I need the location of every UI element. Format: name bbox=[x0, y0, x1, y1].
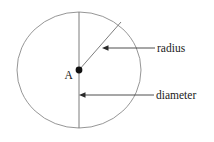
circle-diagram-container: A radius diameter bbox=[0, 0, 214, 142]
radius-label: radius bbox=[157, 42, 186, 54]
radius-arrow-icon bbox=[102, 45, 109, 51]
circle-diagram-svg: A radius diameter bbox=[0, 0, 214, 142]
center-point-label: A bbox=[65, 69, 74, 81]
center-point-dot bbox=[76, 67, 83, 74]
diameter-label: diameter bbox=[156, 89, 196, 101]
radius-segment bbox=[79, 22, 121, 70]
diameter-arrow-icon bbox=[79, 92, 86, 98]
